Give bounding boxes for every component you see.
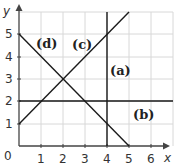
x-tick-1: 1 — [37, 152, 45, 166]
y-tick-5: 5 — [5, 27, 13, 41]
y-tick-2: 2 — [5, 94, 13, 108]
grid — [19, 12, 173, 146]
y-axis-label: y — [2, 4, 11, 18]
y-tick-1: 1 — [5, 117, 13, 131]
line-graph: y x 0 1 2 3 4 5 6 1 2 3 4 5 (a) (b) (c) … — [0, 0, 174, 166]
x-axis-arrow-icon — [163, 143, 170, 150]
y-tick-4: 4 — [5, 50, 13, 64]
x-axis-label: x — [163, 151, 172, 165]
x-tick-4: 4 — [103, 152, 111, 166]
axes — [16, 4, 171, 150]
x-tick-2: 2 — [59, 152, 67, 166]
line-b-label: (b) — [133, 107, 154, 122]
line-a-label: (a) — [110, 63, 131, 78]
origin-label: 0 — [4, 149, 12, 163]
y-axis-arrow-icon — [16, 4, 23, 11]
x-tick-6: 6 — [147, 152, 155, 166]
y-tick-3: 3 — [5, 72, 13, 86]
x-tick-3: 3 — [81, 152, 89, 166]
line-d-label: (d) — [36, 36, 57, 51]
line-c-label: (c) — [72, 37, 92, 52]
x-tick-5: 5 — [125, 152, 133, 166]
